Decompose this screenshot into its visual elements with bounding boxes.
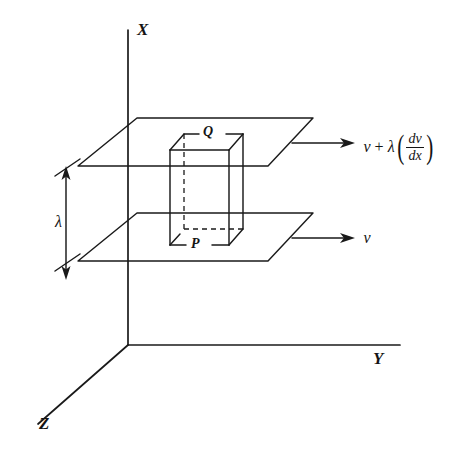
- open-paren-icon: (: [397, 133, 404, 161]
- close-paren-icon: ): [426, 133, 433, 161]
- axis-label-y: Y: [373, 349, 383, 369]
- upper-plane-group: [78, 118, 313, 166]
- prism-top-face-label-q: Q: [203, 124, 213, 140]
- diagram-canvas: [0, 0, 467, 460]
- derivative-fraction: dv dx: [406, 131, 423, 163]
- upper-velocity-label: v + λ ( dv dx ): [362, 131, 434, 163]
- derivative-numerator: dv: [406, 131, 423, 148]
- axis-label-x: X: [137, 20, 148, 40]
- axis-label-z: Z: [39, 414, 49, 434]
- upper-velocity-base: v: [364, 138, 371, 156]
- upper-plane-outline: [78, 118, 313, 166]
- z-axis-line: [38, 345, 128, 424]
- viscosity-diagram-figure: X Y Z Q P λ v + λ ( dv dx ) v: [0, 0, 467, 460]
- lower-velocity-label: v: [362, 229, 372, 247]
- prism-bottom-left-edge: [170, 234, 180, 245]
- prism-top-right-edge: [229, 134, 243, 150]
- lower-velocity-base: v: [364, 229, 371, 247]
- upper-velocity-coefficient: λ: [388, 138, 395, 156]
- prism-bottom-face-label-p: P: [191, 236, 200, 252]
- upper-velocity-operator: +: [375, 138, 384, 156]
- prism-group: [170, 134, 243, 245]
- lambda-separation-label: λ: [55, 213, 62, 231]
- prism-bottom-right-edge: [229, 229, 243, 245]
- derivative-denominator: dx: [406, 148, 423, 164]
- prism-top-left-edge: [170, 134, 184, 150]
- axis-group: [38, 30, 400, 424]
- velocity-arrows-group: [292, 138, 355, 243]
